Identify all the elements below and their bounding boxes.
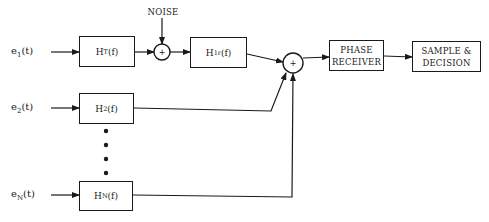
phase-receiver-block: PHASE RECEIVER <box>329 40 384 71</box>
h1r-filter-label: H1r(f) <box>191 38 246 67</box>
h1r-to-sum2-arrow <box>247 54 283 62</box>
sample-decision-line1: SAMPLE & <box>413 45 480 57</box>
h2-to-sum2-arrow <box>134 73 286 111</box>
h1r-sub: 1r <box>214 49 221 57</box>
h2-filter-label: H2(f) <box>80 94 133 123</box>
connection-lines: + + <box>0 0 489 222</box>
svg-text:+: + <box>290 59 297 68</box>
block-diagram: + + NOISE e1(t) e2(t) eN(t) HT(f) H1r(f) <box>0 0 489 222</box>
sample-decision-line2: DECISION <box>413 57 480 69</box>
receiver-to-decision-arrow <box>384 56 412 57</box>
svg-text:+: + <box>159 48 166 57</box>
sample-decision-label: SAMPLE & DECISION <box>413 45 480 69</box>
h1r-suffix: (f) <box>221 48 231 58</box>
ht-suffix: (f) <box>108 47 118 57</box>
h2-base: H <box>95 104 103 114</box>
ht-base: H <box>96 47 104 57</box>
hn-suffix: (f) <box>108 191 118 201</box>
input-label-eN: eN(t) <box>11 188 35 202</box>
ht-filter-label: HT(f) <box>80 37 134 66</box>
h2-filter-block: H2(f) <box>79 93 134 124</box>
input-e2-suffix: (t) <box>21 101 33 112</box>
summing-junction-2: + <box>283 53 303 73</box>
phase-receiver-line1: PHASE <box>330 44 383 56</box>
h1r-filter-block: H1r(f) <box>190 37 247 68</box>
input-label-e1: e1(t) <box>11 45 33 59</box>
h2-suffix: (f) <box>107 104 117 114</box>
hn-filter-label: HN(f) <box>80 182 132 210</box>
input-label-e2: e2(t) <box>11 101 33 115</box>
hn-to-sum2-arrow <box>133 74 293 197</box>
h1r-base: H <box>206 48 214 58</box>
sample-decision-block: SAMPLE & DECISION <box>412 41 481 72</box>
input-e1-suffix: (t) <box>21 45 33 56</box>
hn-filter-block: HN(f) <box>79 181 133 211</box>
phase-receiver-line2: RECEIVER <box>330 56 383 68</box>
input-eN-suffix: (t) <box>23 188 35 199</box>
ellipsis-dots <box>104 129 108 175</box>
noise-label: NOISE <box>146 6 180 18</box>
summing-junction-1: + <box>154 44 170 60</box>
hn-base: H <box>94 191 102 201</box>
ht-filter-block: HT(f) <box>79 36 135 67</box>
sum2-to-receiver-arrow <box>303 57 329 58</box>
phase-receiver-label: PHASE RECEIVER <box>330 44 383 68</box>
